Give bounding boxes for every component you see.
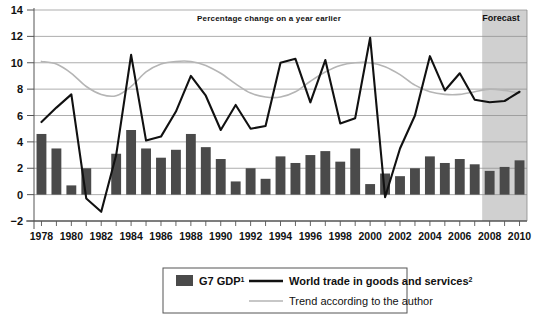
x-tick-label: 1984 — [119, 230, 143, 242]
bar — [291, 163, 301, 195]
bar — [126, 130, 136, 195]
bar — [500, 167, 510, 195]
bar — [201, 147, 211, 194]
x-tick-label: 1988 — [179, 230, 203, 242]
x-tick-label: 2002 — [388, 230, 412, 242]
x-tick-label: 1994 — [269, 230, 293, 242]
chart-container: −202468101214 19781980198219841986198819… — [0, 0, 538, 322]
bar — [186, 134, 196, 195]
bar — [231, 181, 241, 194]
bar — [455, 159, 465, 195]
x-tick-label: 2004 — [418, 230, 442, 242]
bar — [66, 185, 76, 194]
bar — [395, 176, 405, 194]
bar — [410, 168, 420, 194]
bar — [485, 171, 495, 195]
bar — [261, 179, 271, 195]
y-tick-label: 8 — [17, 83, 23, 95]
forecast-label: Forecast — [482, 13, 520, 23]
legend-label-world-trade: World trade in goods and services2 — [289, 275, 473, 287]
bar — [246, 168, 256, 194]
bar — [111, 154, 121, 195]
y-tick-label: 2 — [17, 162, 23, 174]
x-tick-label: 2006 — [448, 230, 472, 242]
bar — [515, 160, 525, 194]
bar — [51, 148, 61, 194]
bar — [276, 156, 286, 194]
bar — [335, 162, 345, 195]
bar — [425, 156, 435, 194]
y-tick-label: 14 — [11, 4, 24, 16]
bar — [365, 184, 375, 195]
legend-label-trend: Trend according to the author — [289, 295, 433, 307]
x-tick-label: 1990 — [209, 230, 233, 242]
x-tick-label: 1998 — [329, 230, 353, 242]
x-axis-tick-labels: 1978198019821984198619881990199219941996… — [30, 230, 532, 242]
bar — [440, 163, 450, 195]
y-tick-label: −2 — [10, 215, 23, 227]
bar — [350, 148, 360, 194]
x-tick-label: 1978 — [30, 230, 54, 242]
x-tick-label: 1986 — [149, 230, 173, 242]
chart-svg: −202468101214 19781980198219841986198819… — [0, 0, 538, 322]
bar — [320, 151, 330, 195]
bar — [37, 134, 47, 195]
bar — [216, 159, 226, 195]
x-tick-label: 2010 — [508, 230, 532, 242]
bar — [171, 150, 181, 195]
x-tick-label: 1996 — [299, 230, 323, 242]
bar — [141, 148, 151, 194]
x-tick-label: 2008 — [478, 230, 502, 242]
bar — [156, 158, 166, 195]
plot-title: Percentage change on a year earlier — [197, 14, 341, 23]
bar — [305, 155, 315, 195]
y-tick-label: 6 — [17, 110, 23, 122]
x-tick-label: 2000 — [358, 230, 382, 242]
x-tick-label: 1980 — [60, 230, 84, 242]
y-tick-label: 0 — [17, 189, 23, 201]
y-tick-label: 10 — [11, 57, 23, 69]
legend-marker-g7-gdp — [176, 275, 193, 286]
y-tick-label: 12 — [11, 30, 23, 42]
bar — [470, 164, 480, 194]
x-tick-label: 1982 — [90, 230, 114, 242]
y-tick-label: 4 — [17, 136, 24, 148]
x-tick-label: 1992 — [239, 230, 263, 242]
legend-label-g7-gdp: G7 GDP1 — [199, 275, 245, 287]
